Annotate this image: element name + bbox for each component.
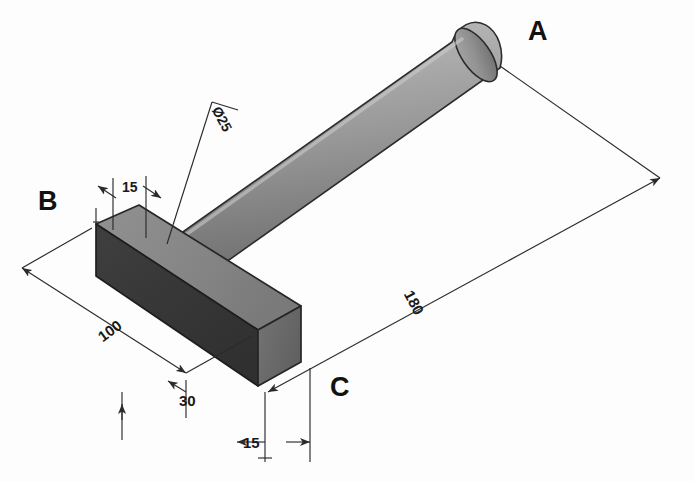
- dim-line-30-upper: [168, 381, 186, 392]
- dimension-height-15-top: 15: [122, 180, 138, 194]
- point-label-a: A: [528, 18, 548, 45]
- dimension-depth-30: 30: [179, 393, 196, 408]
- dimension-width-15-bottom-text: 15: [243, 434, 260, 451]
- ext-line-100-far: [22, 228, 92, 268]
- point-label-b: B: [38, 188, 58, 215]
- point-label-c-text: C: [330, 372, 350, 402]
- dimension-height-15-top-text: 15: [122, 179, 138, 195]
- dimension-width-15-bottom: 15: [243, 435, 260, 450]
- point-label-c: C: [330, 374, 350, 401]
- dimension-depth-30-text: 30: [179, 392, 196, 409]
- isometric-drawing: [0, 0, 694, 482]
- ext-line-180-far: [500, 66, 660, 178]
- dim-line-180: [268, 178, 660, 392]
- point-label-a-text: A: [528, 16, 548, 46]
- drawing-canvas: A B C Ø25 15 180 100 30 15: [0, 0, 694, 482]
- point-label-b-text: B: [38, 186, 58, 216]
